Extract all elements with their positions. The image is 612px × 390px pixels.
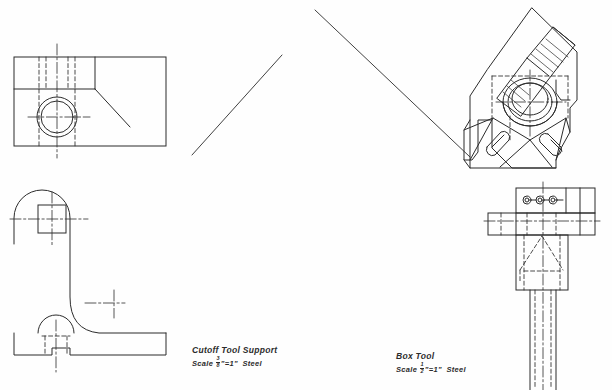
boxtool-isometric bbox=[464, 8, 577, 168]
material: Steel bbox=[243, 359, 262, 368]
drawing-sheet: Cutoff Tool Support Scale 3 8 "=1" Steel… bbox=[0, 0, 612, 390]
material: Steel bbox=[447, 365, 466, 374]
caption-title: Box Tool bbox=[396, 350, 466, 362]
scale-denominator: 2 bbox=[420, 369, 424, 375]
caption-box-tool: Box Tool Scale 1 2 "=1" Steel bbox=[396, 350, 466, 376]
scale-fraction: 3 8 bbox=[216, 356, 220, 368]
boxtool-front-view bbox=[484, 182, 600, 390]
cutoff-top-view bbox=[14, 44, 166, 158]
caption-scale: Scale 3 8 "=1" Steel bbox=[192, 356, 277, 370]
lug-slot-left bbox=[486, 131, 509, 155]
caption-cutoff-tool-support: Cutoff Tool Support Scale 3 8 "=1" Steel bbox=[192, 344, 277, 370]
cutoff-front-view bbox=[10, 190, 166, 372]
scale-prefix: Scale bbox=[192, 359, 213, 368]
leader-left bbox=[192, 55, 282, 155]
drawing-geometry bbox=[0, 0, 612, 390]
scale-prefix: Scale bbox=[396, 365, 417, 374]
scale-fraction: 1 2 bbox=[420, 362, 424, 374]
scale-right: 1" bbox=[229, 359, 237, 368]
scale-denominator: 8 bbox=[216, 363, 220, 369]
caption-scale: Scale 1 2 "=1" Steel bbox=[396, 362, 466, 376]
caption-title: Cutoff Tool Support bbox=[192, 344, 277, 356]
leader-right bbox=[315, 10, 470, 157]
scale-right: 1" bbox=[433, 365, 441, 374]
